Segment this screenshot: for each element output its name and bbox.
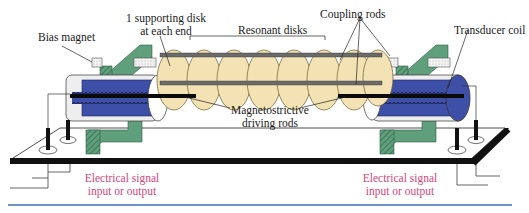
label-signal-right-line2: input or output bbox=[350, 185, 450, 198]
label-driving-rods-line1: Magnetostrictive bbox=[220, 104, 320, 117]
label-signal-right: Electrical signal input or output bbox=[350, 172, 450, 198]
label-driving-rods: Magnetostrictive driving rods bbox=[220, 104, 320, 130]
label-supporting-disk: 1 supporting disk at each end bbox=[118, 12, 214, 38]
label-transducer-coil: Transducer coil bbox=[454, 24, 525, 37]
label-supporting-disk-line1: 1 supporting disk bbox=[118, 12, 214, 25]
label-signal-left: Electrical signal input or output bbox=[72, 172, 172, 198]
label-supporting-disk-line2: at each end bbox=[118, 25, 214, 38]
label-signal-left-line1: Electrical signal bbox=[72, 172, 172, 185]
mechanical-filter-diagram: Bias magnet 1 supporting disk at each en… bbox=[0, 0, 529, 213]
label-bias-magnet: Bias magnet bbox=[38, 31, 95, 44]
label-coupling-rods: Coupling rods bbox=[320, 8, 386, 21]
label-driving-rods-line2: driving rods bbox=[220, 117, 320, 130]
label-resonant-disks: Resonant disks bbox=[238, 24, 307, 37]
label-signal-right-line1: Electrical signal bbox=[350, 172, 450, 185]
label-signal-left-line2: input or output bbox=[72, 185, 172, 198]
